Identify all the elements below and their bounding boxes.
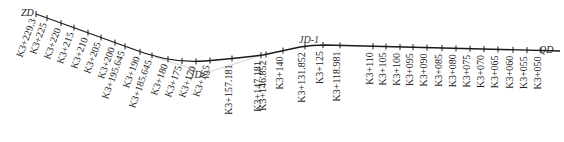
station-leader-line: [397, 50, 400, 53]
station-leader-line: [424, 51, 427, 54]
station-label: K3+095: [404, 53, 415, 86]
station-leader-line: [263, 57, 266, 60]
jd-1-label: JD-1: [299, 34, 319, 45]
station-leader-line: [370, 49, 373, 52]
station-leader-line: [453, 51, 456, 54]
station-leader-line: [524, 53, 527, 56]
station-label: K3+085: [433, 54, 444, 87]
station-label: K3+146.852: [257, 60, 268, 110]
station-leader-line: [510, 53, 513, 56]
station-leader-line: [383, 50, 386, 53]
station-leader-line: [320, 48, 323, 51]
road-alignment-diagram: K3+229.3K3+225K3+220K3+215K3+210K3+205K3…: [0, 0, 564, 142]
station-leader-line: [495, 52, 498, 55]
station-labels: K3+229.3K3+225K3+220K3+215K3+210K3+205K3…: [14, 17, 543, 115]
station-label: K3+157.181: [223, 64, 234, 114]
station-leader-line: [229, 61, 232, 64]
station-label: K3+070: [475, 55, 486, 88]
jd-2-label: JD-2: [190, 69, 210, 80]
start-point-label: ZD: [21, 7, 35, 18]
station-label: K3+131.852: [296, 52, 307, 102]
station-label: K3+125: [314, 51, 325, 84]
station-label: K3+105: [377, 53, 388, 86]
station-label: K3+055: [518, 56, 529, 89]
station-label: K3+090: [418, 54, 429, 87]
station-label: K3+110: [364, 52, 375, 85]
station-leader-line: [481, 52, 484, 55]
end-point-label: QD: [539, 44, 554, 55]
station-label: K3+100: [391, 53, 402, 86]
station-leader-line: [280, 54, 283, 57]
station-label: K3+080: [447, 54, 458, 87]
station-label: K3+065: [489, 55, 500, 88]
station-label: K3+075: [461, 55, 472, 88]
station-leader-line: [337, 48, 340, 51]
station-label: K3+050: [532, 57, 543, 90]
station-leader-line: [302, 49, 305, 52]
station-leader-line: [467, 52, 470, 55]
station-leader-line: [410, 50, 413, 53]
station-label: K3+140: [274, 57, 285, 90]
station-label: K3+118.981: [331, 51, 342, 101]
station-leader-line: [439, 51, 442, 54]
station-label: K3+060: [504, 56, 515, 89]
